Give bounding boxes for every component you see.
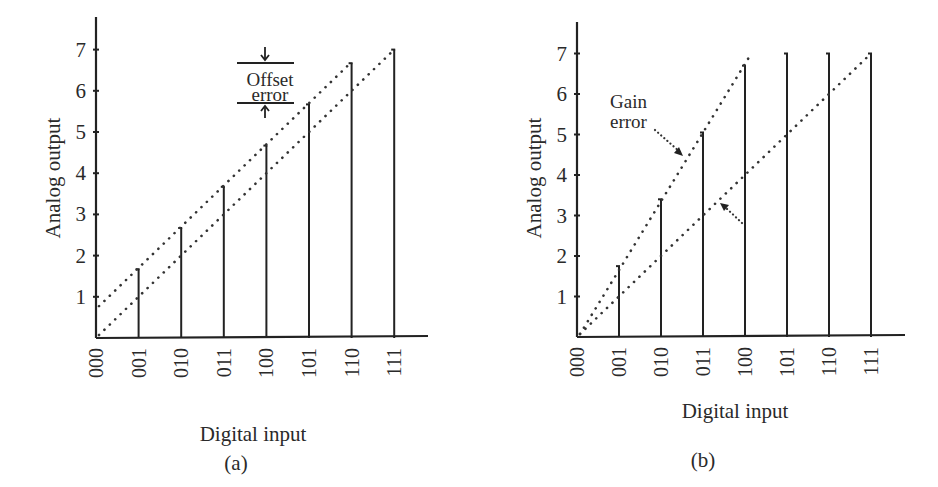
x-tick-label: 101 bbox=[776, 347, 798, 377]
y-tick-label: 7 bbox=[76, 38, 87, 62]
y-tick-label: 1 bbox=[76, 285, 87, 309]
x-tick-label: 100 bbox=[255, 348, 277, 378]
y-tick-label: 4 bbox=[76, 161, 87, 185]
y-tick-label: 3 bbox=[557, 204, 568, 228]
dotted-lines bbox=[99, 50, 394, 335]
dotted-line-ideal bbox=[99, 50, 394, 335]
x-axis-title: Digital input bbox=[682, 399, 789, 423]
x-axis-title: Digital input bbox=[200, 422, 307, 446]
arrow-down-icon bbox=[261, 47, 269, 60]
x-axis bbox=[96, 336, 428, 338]
x-tick-label: 000 bbox=[566, 347, 588, 377]
panel-caption: (a) bbox=[224, 451, 247, 475]
dotted-line-offset bbox=[99, 62, 352, 306]
y-tick-label: 2 bbox=[557, 244, 568, 268]
x-tick-label: 010 bbox=[650, 347, 672, 377]
dac-error-figure: 1234567 000001010011100101110111 Analog … bbox=[0, 0, 938, 487]
y-tick-labels: 1234567 bbox=[557, 42, 568, 309]
x-tick-labels: 000001010011100101110111 bbox=[566, 347, 882, 377]
panel-offset-error: 1234567 000001010011100101110111 Analog … bbox=[41, 17, 428, 475]
annotation-line2: error bbox=[252, 84, 290, 105]
x-tick-label: 011 bbox=[213, 348, 235, 377]
y-tick-label: 2 bbox=[76, 244, 87, 268]
offset-error-annotation: Offset error bbox=[237, 47, 294, 118]
y-tick-labels: 1234567 bbox=[76, 38, 87, 309]
x-tick-label: 000 bbox=[85, 348, 107, 378]
x-tick-label: 010 bbox=[170, 348, 192, 378]
x-tick-label: 110 bbox=[818, 347, 840, 376]
x-tick-label: 100 bbox=[734, 347, 756, 377]
x-tick-label: 111 bbox=[383, 348, 405, 377]
y-tick-label: 7 bbox=[557, 42, 568, 66]
x-tick-label: 001 bbox=[608, 347, 630, 377]
x-tick-label: 011 bbox=[692, 347, 714, 376]
y-tick-label: 6 bbox=[557, 82, 568, 106]
y-tick-label: 5 bbox=[76, 120, 87, 144]
arrow-diagonal-icon bbox=[655, 130, 683, 156]
arrow-diagonal-up-icon bbox=[720, 203, 742, 223]
x-axis bbox=[577, 335, 905, 337]
gain-error-annotation: Gain error bbox=[610, 91, 742, 223]
y-tick-label: 6 bbox=[76, 79, 87, 103]
panel-gain-error: 1234567 000001010011100101110111 Analog … bbox=[522, 22, 905, 472]
y-tick-label: 4 bbox=[557, 163, 568, 187]
y-axis-title: Analog output bbox=[522, 117, 546, 238]
y-axis-title: Analog output bbox=[41, 117, 65, 238]
x-tick-label: 110 bbox=[341, 348, 363, 377]
y-tick-label: 3 bbox=[76, 202, 87, 226]
x-tick-label: 111 bbox=[860, 347, 882, 376]
x-tick-labels: 000001010011100101110111 bbox=[85, 348, 405, 378]
annotation-line1: Gain bbox=[610, 91, 647, 112]
annotation-line2: error bbox=[610, 111, 648, 132]
bars bbox=[616, 54, 872, 338]
x-tick-label: 101 bbox=[298, 348, 320, 378]
y-tick-label: 1 bbox=[557, 285, 568, 309]
x-tick-label: 001 bbox=[128, 348, 150, 378]
y-tick-label: 5 bbox=[557, 123, 568, 147]
panel-caption: (b) bbox=[691, 448, 716, 472]
arrow-up-icon bbox=[261, 106, 269, 118]
